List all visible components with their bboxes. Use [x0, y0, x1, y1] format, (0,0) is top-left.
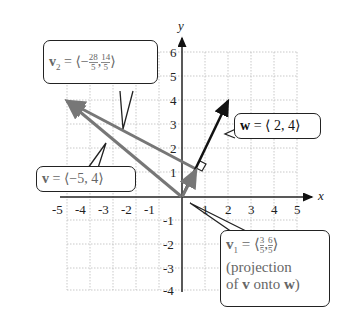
x-axis-label: x — [318, 188, 324, 204]
x-tick: 3 — [248, 202, 255, 218]
y-tick: 2 — [170, 141, 177, 157]
x-tick: -4 — [75, 202, 86, 218]
v-symbol: v — [242, 276, 250, 292]
v2-symbol: v — [49, 54, 56, 69]
projection-text: (projection — [226, 259, 324, 276]
y-axis-label: y — [178, 18, 184, 34]
y-tick: 5 — [170, 69, 177, 85]
y-tick: 1 — [170, 165, 177, 181]
v-value: = ⟨−5, 4⟩ — [49, 171, 104, 186]
v1-callout: v1 = ⟨35,65⟩ (projection of v onto w) — [220, 230, 330, 307]
v2-eq: = ⟨− — [61, 54, 89, 69]
v1-callout-tail — [190, 203, 248, 232]
x-tick: 4 — [271, 202, 278, 218]
x-tick: 2 — [225, 202, 232, 218]
v-callout-tail — [88, 143, 106, 168]
x-tick: 5 — [294, 202, 301, 218]
text: of — [226, 276, 242, 292]
v1-equation: v1 = ⟨35,65⟩ — [226, 236, 324, 259]
w-symbol: w — [284, 276, 295, 292]
denominator: 5 — [89, 63, 98, 72]
v1-symbol: v — [226, 236, 234, 252]
w-symbol: w — [240, 118, 250, 133]
close-bracket: ⟩ — [273, 236, 279, 252]
v2-callout-tail — [120, 91, 133, 129]
w-value: = ⟨ 2, 4⟩ — [250, 118, 300, 133]
x-tick: -2 — [121, 202, 132, 218]
fraction: 145 — [101, 53, 110, 72]
v2-callout: v2 = ⟨−285,145⟩ — [43, 40, 158, 84]
x-tick: -1 — [144, 202, 155, 218]
y-tick: 3 — [170, 117, 177, 133]
text: onto — [250, 276, 284, 292]
y-tick: 4 — [170, 93, 177, 109]
vector-v2 — [67, 101, 196, 169]
text: ) — [295, 276, 300, 292]
v-callout: v = ⟨−5, 4⟩ — [36, 166, 136, 192]
x-tick: -5 — [52, 202, 63, 218]
v1-eq: = ⟨ — [238, 236, 260, 252]
y-tick: 6 — [170, 45, 177, 61]
y-tick: -2 — [163, 237, 174, 253]
v-symbol: v — [42, 171, 49, 186]
y-tick: -4 — [163, 283, 174, 299]
x-tick: 1 — [202, 202, 209, 218]
denominator: 5 — [101, 63, 110, 72]
close-bracket: ⟩ — [110, 54, 115, 69]
y-tick: -1 — [163, 213, 174, 229]
vector-v1 — [182, 170, 196, 197]
w-callout: w = ⟨ 2, 4⟩ — [234, 113, 321, 139]
projection-text-line3: of v onto w) — [226, 276, 324, 293]
x-tick: -3 — [98, 202, 109, 218]
y-tick: -3 — [163, 261, 174, 277]
fraction: 285 — [89, 53, 98, 72]
